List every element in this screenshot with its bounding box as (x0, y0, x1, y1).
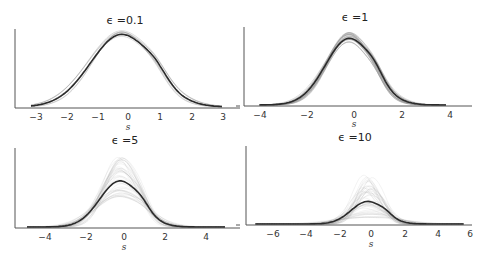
x-tick-label: 1 (157, 112, 163, 122)
sample-density-curve (27, 179, 225, 227)
x-tick-label: 2 (402, 229, 408, 239)
sample-density-curve (260, 34, 446, 105)
sample-density-curve (260, 38, 446, 105)
sample-density-curve (31, 31, 222, 107)
sample-density-curve (260, 34, 446, 105)
sample-density-curve (27, 172, 225, 227)
x-tick-label: 4 (447, 110, 453, 120)
panel-eps-1: ϵ =1 −4 −2 0 2 4 s (236, 11, 472, 129)
x-tick-label: 2 (162, 232, 168, 242)
panel-title: ϵ =5 (112, 134, 138, 147)
figure: ϵ =0.1 −3 −2 −1 0 1 2 3 s ϵ =1 −4 −2 0 2… (0, 0, 481, 254)
sample-density-curve (27, 190, 225, 227)
sample-density-curves (256, 175, 464, 224)
x-tick-label: −4 (299, 229, 313, 239)
x-tick-label: −6 (266, 229, 280, 239)
sample-density-curve (260, 42, 446, 105)
x-tick-label: 2 (189, 112, 195, 122)
x-axis-label: s (126, 122, 131, 132)
x-tick-label: 0 (368, 229, 374, 239)
sample-density-curve (31, 32, 222, 106)
sample-density-curve (260, 37, 446, 105)
x-tick-labels: −3 −2 −1 0 1 2 3 (29, 112, 226, 122)
sample-density-curve (260, 39, 446, 105)
x-tick-label: 4 (435, 229, 441, 239)
sample-density-curves (260, 33, 446, 105)
x-tick-label: −3 (29, 112, 42, 122)
panel-title: ϵ =10 (338, 131, 371, 144)
x-tick-label: −2 (60, 112, 73, 122)
sample-density-curve (27, 197, 225, 228)
sample-density-curve (27, 193, 225, 227)
x-axis-label: s (369, 239, 374, 249)
x-tick-label: 2 (399, 110, 405, 120)
sample-density-curve (27, 197, 225, 228)
sample-density-curve (27, 193, 225, 227)
x-axis-label: s (352, 119, 357, 129)
panel-title: ϵ =1 (342, 11, 368, 24)
x-tick-labels: −4 −2 0 2 4 (38, 232, 209, 242)
sample-density-curves (31, 31, 222, 107)
sample-density-curve (260, 39, 446, 105)
x-tick-label: −4 (38, 232, 52, 242)
sample-density-curve (260, 33, 446, 105)
sample-density-curve (260, 42, 446, 105)
panel-eps-10: ϵ =10 −6 −4 −2 0 2 4 6 s (236, 131, 473, 249)
sample-density-curves (27, 158, 225, 228)
sample-density-curve (27, 190, 225, 227)
x-tick-label: −1 (91, 112, 104, 122)
sample-density-curve (27, 184, 225, 227)
sample-density-curve (27, 195, 225, 227)
sample-density-curve (256, 195, 464, 224)
x-tick-label: −2 (79, 232, 92, 242)
sample-density-curve (260, 35, 446, 105)
sample-density-curve (260, 37, 446, 105)
x-tick-label: −4 (253, 110, 267, 120)
sample-density-curve (256, 213, 464, 224)
sample-density-curve (27, 197, 225, 227)
sample-density-curve (31, 32, 222, 106)
panel-title: ϵ =0.1 (107, 14, 144, 27)
sample-density-curve (260, 36, 446, 105)
x-tick-label: 4 (203, 232, 209, 242)
x-tick-label: 6 (467, 229, 473, 239)
sample-density-curve (27, 195, 225, 227)
x-tick-label: 3 (220, 112, 226, 122)
x-tick-label: 0 (125, 112, 131, 122)
sample-density-curve (260, 42, 446, 105)
x-tick-label: 0 (121, 232, 127, 242)
sample-density-curve (260, 40, 446, 105)
sample-density-curve (260, 40, 446, 105)
sample-density-curve (27, 195, 225, 227)
x-axis-label: s (122, 242, 127, 252)
sample-density-curve (260, 35, 446, 105)
x-tick-labels: −6 −4 −2 0 2 4 6 (266, 229, 473, 239)
panel-eps-0.1: ϵ =0.1 −3 −2 −1 0 1 2 3 s (15, 14, 240, 132)
sample-density-curve (31, 32, 222, 107)
sample-density-curve (256, 208, 464, 224)
mean-density-curve (260, 38, 446, 105)
sample-density-curve (31, 33, 222, 106)
sample-density-curve (256, 217, 464, 224)
x-tick-label: −2 (333, 229, 346, 239)
sample-density-curve (260, 38, 446, 105)
sample-density-curve (260, 34, 446, 105)
panel-eps-5: ϵ =5 −4 −2 0 2 4 s (15, 134, 240, 252)
sample-density-curve (260, 34, 446, 105)
sample-density-curve (27, 183, 225, 227)
sample-density-curve (260, 36, 446, 105)
sample-density-curve (260, 37, 446, 106)
x-tick-label: −2 (300, 110, 313, 120)
